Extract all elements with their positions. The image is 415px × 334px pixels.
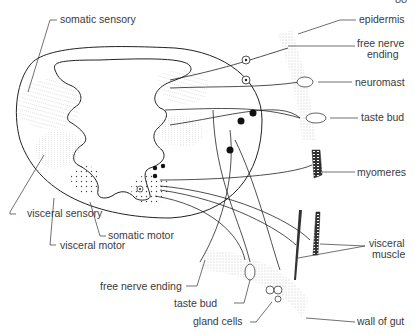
label-visceral-sensory: visceral sensory bbox=[27, 208, 102, 219]
label-epidermis: epidermis bbox=[359, 14, 405, 25]
visceral-sensory-zone bbox=[36, 130, 81, 168]
somatic-sensory-zone bbox=[17, 79, 80, 129]
label-visceral-motor: visceral motor bbox=[60, 240, 125, 251]
myomeres-block bbox=[312, 150, 322, 178]
label-neuromast: neuromast bbox=[355, 77, 405, 88]
label-visceral-muscle-2: muscle bbox=[372, 249, 405, 260]
visceral-motor-zone bbox=[71, 166, 101, 195]
visceral-muscle-spindle bbox=[294, 210, 302, 280]
label-somatic-motor: somatic motor bbox=[108, 230, 174, 241]
spinal-cord-functional-components-diagram: 88 somatic sensory visceral sensory visc… bbox=[0, 0, 415, 334]
label-wall-of-gut: wall of gut bbox=[357, 316, 404, 327]
label-taste-bud-gut: taste bud bbox=[174, 298, 217, 309]
label-somatic-sensory: somatic sensory bbox=[60, 14, 136, 25]
label-myomeres: myomeres bbox=[357, 167, 406, 178]
visceral-muscle-block bbox=[313, 212, 320, 255]
label-free-nerve-ending-gut: free nerve ending bbox=[100, 281, 182, 292]
page-number-fragment: 88 bbox=[395, 0, 407, 5]
diagram-drawing bbox=[0, 0, 415, 334]
label-taste-bud-skin: taste bud bbox=[361, 112, 404, 123]
label-gland-cells: gland cells bbox=[193, 316, 243, 327]
label-free-nerve-ending-skin-2: ending bbox=[367, 49, 399, 60]
